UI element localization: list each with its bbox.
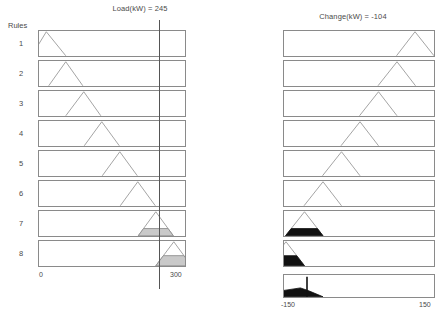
fired-membership-region xyxy=(138,229,173,236)
rule-number-7: 7 xyxy=(14,219,28,228)
membership-triangle xyxy=(49,62,83,86)
antecedent-cell-rule-2[interactable] xyxy=(38,60,186,87)
fired-membership-region xyxy=(156,256,185,266)
consequent-cell-rule-5[interactable] xyxy=(283,150,435,177)
membership-triangle xyxy=(360,92,398,116)
aggregate-output-cell[interactable] xyxy=(283,274,435,298)
antecedent-cell-rule-4[interactable] xyxy=(38,120,186,147)
consequent-cell-rule-3[interactable] xyxy=(283,90,435,117)
consequent-cell-rule-4[interactable] xyxy=(283,120,435,147)
antecedent-cell-rule-6[interactable] xyxy=(38,180,186,207)
membership-triangle xyxy=(39,32,66,56)
membership-triangle xyxy=(102,152,137,176)
fired-membership-region xyxy=(286,229,324,236)
input-axis-min-label: 0 xyxy=(39,271,43,278)
rule-number-4: 4 xyxy=(14,129,28,138)
membership-triangle xyxy=(323,152,361,176)
rule-number-6: 6 xyxy=(14,189,28,198)
fired-membership-region xyxy=(284,256,305,266)
input-variable-title: Load(kW) = 245 xyxy=(80,4,200,13)
consequent-cell-rule-7[interactable] xyxy=(283,210,435,237)
input-axis-max-label: 300 xyxy=(170,271,182,278)
antecedent-cell-rule-7[interactable] xyxy=(38,210,186,237)
membership-triangle xyxy=(397,32,435,56)
rule-number-3: 3 xyxy=(14,99,28,108)
membership-triangle xyxy=(341,122,379,146)
output-axis-min-label: -150 xyxy=(281,301,295,308)
consequent-cell-rule-8[interactable] xyxy=(283,240,435,267)
membership-triangle xyxy=(378,62,416,86)
rule-number-8: 8 xyxy=(14,249,28,258)
consequent-cell-rule-1[interactable] xyxy=(283,30,435,57)
input-value-line[interactable] xyxy=(159,20,160,289)
aggregate-output-area xyxy=(284,288,323,297)
membership-triangle xyxy=(120,182,155,206)
membership-triangle xyxy=(66,92,101,116)
antecedent-cell-rule-1[interactable] xyxy=(38,30,186,57)
output-variable-title: Change(kW) = -104 xyxy=(283,12,423,21)
rules-axis-label: Rules xyxy=(8,21,27,30)
rule-number-2: 2 xyxy=(14,69,28,78)
rule-number-1: 1 xyxy=(14,39,28,48)
antecedent-cell-rule-8[interactable] xyxy=(38,240,186,267)
consequent-cell-rule-2[interactable] xyxy=(283,60,435,87)
antecedent-cell-rule-5[interactable] xyxy=(38,150,186,177)
rule-number-5: 5 xyxy=(14,159,28,168)
antecedent-cell-rule-3[interactable] xyxy=(38,90,186,117)
consequent-cell-rule-6[interactable] xyxy=(283,180,435,207)
output-axis-max-label: 150 xyxy=(419,301,431,308)
membership-triangle xyxy=(84,122,119,146)
membership-triangle xyxy=(304,182,342,206)
